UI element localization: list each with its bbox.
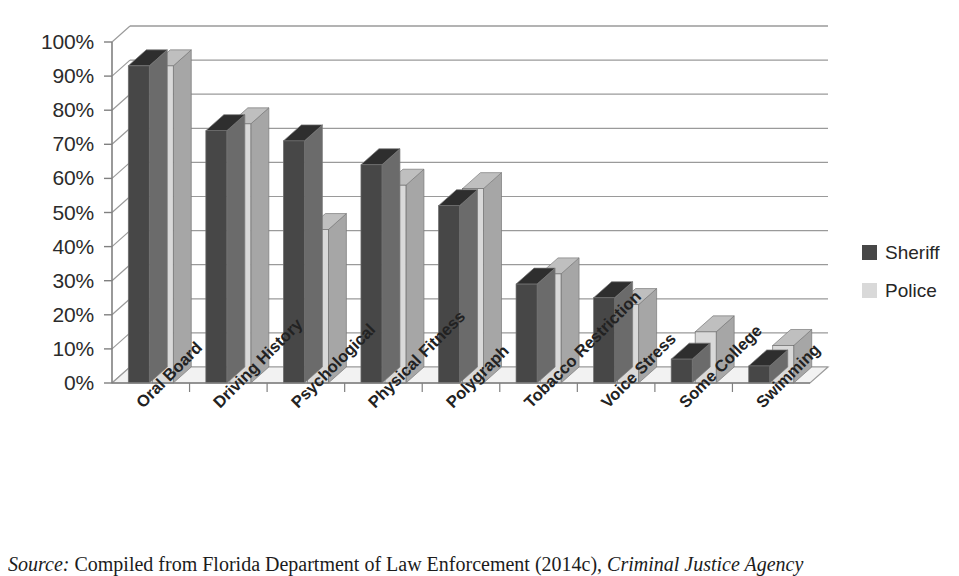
legend-item-police: Police xyxy=(862,281,957,300)
legend-label-police: Police xyxy=(885,281,937,300)
source-prefix: Source: xyxy=(8,553,69,575)
legend-swatch-police xyxy=(862,283,877,298)
source-body: Compiled from Florida Department of Law … xyxy=(69,553,607,575)
x-label-polygraph: Polygraph xyxy=(443,342,512,411)
source-caption: Source: Compiled from Florida Department… xyxy=(8,552,959,576)
x-label-voice-stress: Voice Stress xyxy=(598,330,679,411)
legend-swatch-sheriff xyxy=(862,245,877,260)
legend-label-sheriff: Sheriff xyxy=(885,243,940,262)
x-label-oral-board: Oral Board xyxy=(133,339,205,411)
legend-item-sheriff: Sheriff xyxy=(862,243,957,262)
x-label-swimming: Swimming xyxy=(753,341,823,411)
chart-legend: Sheriff Police xyxy=(862,243,957,319)
source-italic-title: Criminal Justice Agency xyxy=(607,553,803,575)
x-axis-category-labels: Oral BoardDriving HistoryPsychologicalPh… xyxy=(0,0,959,540)
bar-chart-figure: 0%10%20%30%40%50%60%70%80%90%100% Oral B… xyxy=(0,0,959,540)
